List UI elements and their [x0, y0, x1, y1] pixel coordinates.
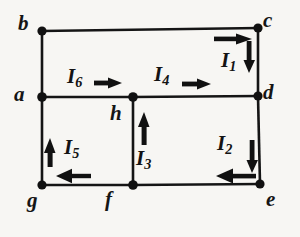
current-label-I2: I2: [217, 133, 232, 156]
node-label-g: g: [27, 190, 38, 211]
node-label-e: e: [266, 189, 275, 210]
circuit-diagram-figure: b c a d h g f e I1 I2 I3 I4 I5 I6: [0, 0, 300, 237]
current-subscript-I6: 6: [75, 74, 82, 90]
current-label-I4: I4: [154, 64, 169, 87]
current-subscript-I1: 1: [229, 58, 236, 74]
current-label-I5: I5: [64, 137, 79, 160]
node-dot-c: [253, 23, 262, 32]
arrow-I6-right: [94, 78, 122, 89]
arrow-I4-right: [182, 79, 211, 90]
node-label-f: f: [105, 189, 112, 210]
current-symbol-I1: I: [221, 48, 229, 72]
node-label-c: c: [263, 10, 272, 31]
current-label-I6: I6: [67, 66, 82, 89]
current-symbol-I2: I: [217, 131, 225, 155]
current-label-I1: I1: [221, 50, 236, 73]
current-subscript-I2: 2: [225, 141, 232, 157]
node-dot-h: [128, 92, 138, 102]
node-label-b: b: [18, 13, 29, 34]
arrow-I1-right: [214, 34, 252, 45]
wire-h-d: [133, 96, 258, 97]
node-dot-g: [37, 180, 46, 189]
arrow-I1-down: [244, 41, 256, 73]
wire-d-e: [258, 96, 260, 184]
current-symbol-I3: I: [136, 146, 144, 170]
node-dot-b: [37, 26, 46, 35]
node-dot-f: [128, 180, 138, 190]
current-symbol-I6: I: [67, 64, 75, 88]
current-subscript-I4: 4: [162, 72, 169, 88]
node-dot-a: [37, 92, 47, 102]
circuit-graphics: [0, 0, 300, 237]
node-label-d: d: [263, 82, 274, 103]
current-label-I3: I3: [136, 148, 151, 171]
node-dot-e: [255, 179, 264, 188]
arrow-I5-left: [56, 169, 91, 183]
node-label-a: a: [14, 84, 25, 105]
current-symbol-I5: I: [64, 135, 72, 159]
current-subscript-I5: 5: [72, 145, 79, 161]
arrow-I3-up: [138, 112, 150, 145]
current-symbol-I4: I: [154, 62, 162, 86]
current-subscript-I3: 3: [144, 156, 151, 172]
arrow-I2-down: [247, 140, 259, 173]
wire-b-c: [42, 28, 258, 31]
arrow-I2-left: [216, 169, 256, 184]
node-label-h: h: [110, 103, 122, 124]
node-dot-d: [253, 91, 262, 100]
arrow-I5-up: [44, 138, 56, 167]
wire-f-e: [133, 184, 260, 185]
